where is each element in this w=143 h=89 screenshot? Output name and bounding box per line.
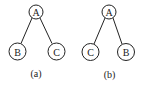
node-a-right: C [48,43,65,60]
node-label: B [123,47,130,58]
node-label: C [53,47,60,58]
node-a-left: B [9,43,26,60]
caption-a: (a) [30,68,41,80]
edge-b-root-left [94,18,105,44]
node-b-left: C [82,44,99,61]
node-b-root: A [102,5,116,19]
node-b-right: B [118,44,135,61]
tree-diagrams: A B C (a) A C B (b) [0,0,143,89]
node-label: B [14,47,21,58]
node-label: A [105,7,113,18]
caption-b: (b) [104,69,116,81]
node-label: C [87,47,94,58]
tree-a: A B C (a) [9,5,65,80]
edge-a-root-right [40,18,52,44]
tree-b: A C B (b) [82,5,135,81]
node-a-root: A [29,5,43,19]
node-label: A [32,7,40,18]
edge-a-root-left [21,18,32,44]
edge-b-root-right [113,18,122,44]
